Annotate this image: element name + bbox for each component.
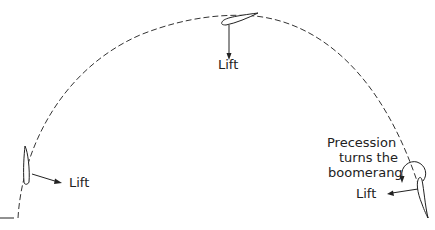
boomerang-top-icon <box>222 13 258 25</box>
lift-arrow-right <box>392 189 418 193</box>
precession-label-line1: Precession <box>327 136 396 150</box>
lift-arrow-left <box>32 174 58 182</box>
boomerang-right-icon <box>417 177 428 218</box>
boomerang-left-icon <box>24 146 30 184</box>
precession-arrow <box>402 162 426 181</box>
lift-label-left: Lift <box>69 176 89 190</box>
arrowhead-left-icon <box>54 179 62 185</box>
precession-label-line2: turns the <box>339 151 398 165</box>
lift-label-right: Lift <box>356 187 376 201</box>
precession-label-line3: boomerang <box>328 166 403 180</box>
arrowhead-right-icon <box>387 191 394 197</box>
lift-label-top: Lift <box>218 58 238 72</box>
